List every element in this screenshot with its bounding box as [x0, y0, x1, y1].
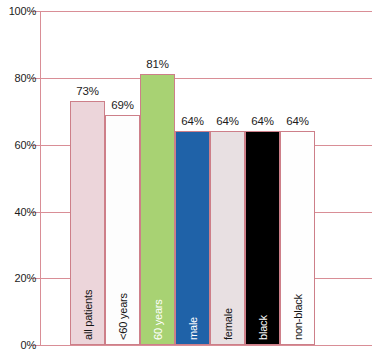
bar-category-label: 60 years [152, 299, 163, 340]
bar-category-label-holder: female [211, 250, 244, 340]
y-axis-label-20: 20% [0, 272, 36, 284]
gridline-0 [40, 345, 372, 346]
bar-chart: 100% 80% 60% 40% 20% 0% all patients73%<… [0, 0, 372, 359]
bar-category-label: female [222, 308, 233, 340]
bar[interactable]: non-black [280, 131, 315, 345]
y-axis-label-0: 0% [0, 339, 36, 351]
bar-category-label: <60 years [117, 293, 128, 340]
bar-group: male64% [175, 11, 210, 345]
bar-category-label-holder: all patients [71, 250, 104, 340]
bar-category-label: male [187, 317, 198, 340]
bar[interactable]: female [210, 131, 245, 345]
bar-group: <60 years69% [105, 11, 140, 345]
bar-group: non-black64% [280, 11, 315, 345]
y-axis-label-100: 100% [0, 5, 36, 17]
y-axis-label-40: 40% [0, 206, 36, 218]
bar-category-label-holder: 60 years [141, 250, 174, 340]
bar-value-label: 81% [146, 58, 168, 70]
bar-category-label: black [257, 315, 268, 340]
bar-group: all patients73% [70, 11, 105, 345]
bar[interactable]: 60 years [140, 74, 175, 345]
y-axis-label-80: 80% [0, 72, 36, 84]
bar[interactable]: black [245, 131, 280, 345]
bar-category-label: non-black [292, 294, 303, 340]
bar-category-label-holder: <60 years [106, 250, 139, 340]
y-axis-label-60: 60% [0, 139, 36, 151]
bar-value-label: 69% [111, 99, 133, 111]
bar[interactable]: all patients [70, 101, 105, 345]
bar-value-label: 64% [216, 115, 238, 127]
bar-category-label: all patients [82, 290, 93, 340]
bar-category-label-holder: black [246, 250, 279, 340]
bar-category-label-holder: non-black [281, 250, 314, 340]
bar[interactable]: <60 years [105, 115, 140, 345]
bar-group: female64% [210, 11, 245, 345]
bar-group: 60 years81% [140, 11, 175, 345]
bar-value-label: 64% [286, 115, 308, 127]
bar[interactable]: male [175, 131, 210, 345]
bar-value-label: 64% [181, 115, 203, 127]
bar-category-label-holder: male [176, 250, 209, 340]
plot-area: all patients73%<60 years69%60 years81%ma… [40, 11, 372, 345]
bar-value-label: 73% [76, 85, 98, 97]
bar-group: black64% [245, 11, 280, 345]
bar-value-label: 64% [251, 115, 273, 127]
